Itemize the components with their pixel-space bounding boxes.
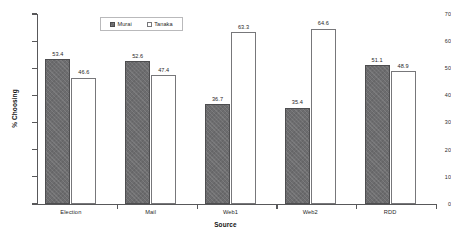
bar-value-label: 64.6 — [318, 20, 329, 26]
bar-chart: 010203040506070 53.446.652.647.436.763.3… — [0, 0, 451, 239]
category-label-mail: Mail — [125, 209, 176, 215]
bar-tanaka-rdd: 48.9 — [391, 71, 416, 204]
bar-value-label: 46.6 — [78, 69, 89, 75]
bar-value-label: 63.3 — [238, 24, 249, 30]
category-label-web1: Web1 — [205, 209, 256, 215]
bar-group: 35.464.6 — [285, 14, 336, 204]
legend-label: Murai — [118, 21, 132, 27]
x-tick-mark — [276, 204, 277, 209]
bar-group: 51.148.9 — [365, 14, 416, 204]
bar-group: 53.446.6 — [45, 14, 96, 204]
bar-tanaka-election: 46.6 — [71, 78, 96, 204]
x-axis-title: Source — [0, 221, 451, 228]
legend-label: Tanaka — [154, 21, 172, 27]
bar-value-label: 53.4 — [52, 51, 63, 57]
bar-murai-web1: 36.7 — [205, 104, 230, 204]
legend-item-murai: Murai — [110, 21, 132, 27]
x-axis-line — [37, 204, 436, 205]
bar-value-label: 52.6 — [132, 53, 143, 59]
y-axis-title: % Choosing — [11, 54, 18, 164]
bar-value-label: 36.7 — [212, 96, 223, 102]
legend-swatch-murai-icon — [110, 22, 115, 27]
x-tick-mark — [436, 204, 437, 209]
bar-tanaka-web2: 64.6 — [311, 29, 336, 204]
plot-area: 53.446.652.647.436.763.335.464.651.148.9 — [37, 14, 436, 204]
legend-swatch-tanaka-icon — [147, 22, 152, 27]
bar-murai-election: 53.4 — [45, 59, 70, 204]
bar-tanaka-web1: 63.3 — [231, 32, 256, 204]
x-tick-mark — [197, 204, 198, 209]
bar-group: 52.647.4 — [125, 14, 176, 204]
x-tick-mark — [117, 204, 118, 209]
category-label-election: Election — [45, 209, 96, 215]
legend-item-tanaka: Tanaka — [147, 21, 173, 27]
x-tick-mark — [356, 204, 357, 209]
bar-murai-web2: 35.4 — [285, 108, 310, 204]
category-label-rdd: RDD — [365, 209, 416, 215]
bar-murai-mail: 52.6 — [125, 61, 150, 204]
bar-value-label: 48.9 — [398, 63, 409, 69]
bar-tanaka-mail: 47.4 — [151, 75, 176, 204]
category-label-web2: Web2 — [285, 209, 336, 215]
bar-group: 36.763.3 — [205, 14, 256, 204]
bar-value-label: 47.4 — [158, 67, 169, 73]
bar-value-label: 35.4 — [292, 99, 303, 105]
chart-legend: MuraiTanaka — [100, 17, 183, 31]
bar-murai-rdd: 51.1 — [365, 65, 390, 204]
bar-value-label: 51.1 — [372, 57, 383, 63]
